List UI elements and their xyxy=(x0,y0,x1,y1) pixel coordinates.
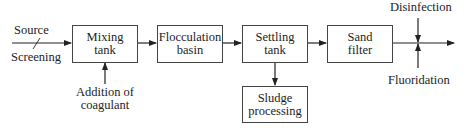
mixing-tank-line2: tank xyxy=(94,44,116,57)
sludge-line1: Sludge xyxy=(258,92,293,105)
source-label: Source xyxy=(14,24,49,37)
flocculation-basin-box: Flocculation basin xyxy=(157,25,223,63)
mixing-tank-box: Mixing tank xyxy=(72,25,138,63)
connector-lines xyxy=(0,0,465,129)
coagulant-label: Addition of coagulant xyxy=(73,86,137,112)
sludge-processing-box: Sludge processing xyxy=(242,86,308,123)
sludge-line2: processing xyxy=(248,105,301,118)
fluoridation-label: Fluoridation xyxy=(388,74,450,87)
coagulant-line2: coagulant xyxy=(73,99,137,112)
settling-line2: tank xyxy=(264,44,286,57)
process-flow-diagram: Source Screening Mixing tank Addition of… xyxy=(0,0,465,129)
disinfection-label: Disinfection xyxy=(390,1,452,14)
settling-tank-box: Settling tank xyxy=(242,25,308,63)
sand-filter-box: Sand filter xyxy=(327,25,393,63)
sand-line2: filter xyxy=(348,44,372,57)
screening-label: Screening xyxy=(11,51,61,64)
flocculation-line2: basin xyxy=(177,44,203,57)
